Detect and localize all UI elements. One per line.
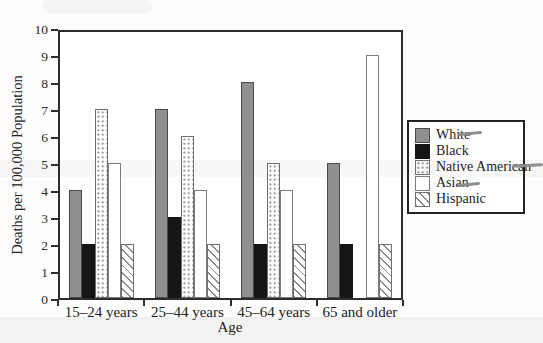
x-category-label: 25–44 years <box>139 304 235 321</box>
y-axis-tick-label: 10 <box>22 22 48 38</box>
bar-asian-group3 <box>280 190 293 298</box>
bar-black-group1 <box>82 244 95 298</box>
y-axis-tick <box>51 272 58 274</box>
legend-item-hispanic: Hispanic <box>415 191 520 207</box>
y-axis-tick-label: 0 <box>22 292 48 308</box>
legend-swatch-native-american <box>415 160 430 175</box>
bar-native-american-group3 <box>267 163 280 298</box>
bar-black-group4 <box>340 244 353 298</box>
bar-white-group1 <box>69 190 82 298</box>
legend-label: Black <box>436 143 469 159</box>
y-axis-tick <box>51 218 58 220</box>
y-axis-tick-label: 3 <box>22 211 48 227</box>
legend-swatch-white <box>415 128 430 143</box>
bar-native-american-group1 <box>95 109 108 298</box>
y-axis-tick <box>51 56 58 58</box>
bar-black-group2 <box>168 217 181 298</box>
legend-label: Hispanic <box>436 191 486 207</box>
bar-hispanic-group2 <box>207 244 220 298</box>
bar-asian-group1 <box>108 163 121 298</box>
y-axis-tick-label: 7 <box>22 103 48 119</box>
bar-hispanic-group3 <box>293 244 306 298</box>
bar-native-american-group2 <box>181 136 194 298</box>
bar-asian-group2 <box>194 190 207 298</box>
y-axis-tick <box>51 110 58 112</box>
y-axis-tick-label: 9 <box>22 49 48 65</box>
legend-swatch-asian <box>415 176 430 191</box>
bar-asian-group4 <box>366 55 379 298</box>
y-axis-tick-label: 1 <box>22 265 48 281</box>
y-axis-tick-label: 4 <box>22 184 48 200</box>
y-axis-tick <box>51 191 58 193</box>
y-axis-tick <box>51 83 58 85</box>
y-axis-tick-label: 5 <box>22 157 48 173</box>
bar-black-group3 <box>254 244 267 298</box>
y-axis-tick-label: 8 <box>22 76 48 92</box>
bar-hispanic-group4 <box>379 244 392 298</box>
scan-smudge <box>42 0 152 13</box>
x-category-label: 45–64 years <box>226 304 322 321</box>
x-category-label: 65 and older <box>312 304 408 321</box>
bar-white-group4 <box>327 163 340 298</box>
x-category-label: 15–24 years <box>53 304 149 321</box>
y-axis-tick <box>51 245 58 247</box>
y-axis-tick-label: 6 <box>22 130 48 146</box>
legend-swatch-black <box>415 144 430 159</box>
legend-item-black: Black <box>415 143 520 159</box>
x-axis-title: Age <box>182 319 278 336</box>
y-axis-tick <box>51 164 58 166</box>
y-axis-tick <box>51 137 58 139</box>
y-axis-tick <box>51 29 58 31</box>
bar-white-group2 <box>155 109 168 298</box>
legend-swatch-hispanic <box>415 192 430 207</box>
bar-hispanic-group1 <box>121 244 134 298</box>
y-axis-tick-label: 2 <box>22 238 48 254</box>
chart: Deaths per 100,000 Population Age WhiteB… <box>0 0 543 343</box>
legend-item-native-american: Native American <box>415 159 520 175</box>
bar-white-group3 <box>241 82 254 298</box>
